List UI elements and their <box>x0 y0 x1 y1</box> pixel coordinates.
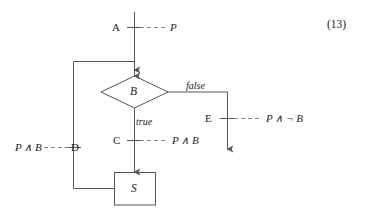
equation-number: (13) <box>327 19 346 31</box>
figure-container: (13) A C D E B S true false P P ∧ B P ∧ … <box>0 0 373 224</box>
assertion-d: P ∧ B <box>15 142 42 153</box>
control-point-label-c: C <box>113 135 120 146</box>
assertion-c: P ∧ B <box>172 135 199 146</box>
statement-label: S <box>131 183 137 195</box>
decision-label: B <box>130 86 137 98</box>
true-branch-label: true <box>136 117 152 127</box>
control-point-label-d: D <box>71 142 79 153</box>
assertion-a: P <box>170 22 177 33</box>
flowchart-graphic <box>0 0 373 224</box>
control-point-label-e: E <box>205 113 212 124</box>
control-point-label-a: A <box>112 22 120 33</box>
false-branch-label: false <box>186 81 205 91</box>
false-branch-edge <box>168 92 228 100</box>
assertion-e: P ∧ ¬ B <box>266 113 303 124</box>
